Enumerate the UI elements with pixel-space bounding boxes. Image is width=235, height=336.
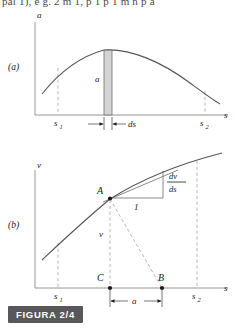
panel-b-derivative-label: dv ds bbox=[167, 171, 186, 194]
svg-text:2: 2 bbox=[198, 296, 202, 303]
panel-b-y-axis-label: v bbox=[37, 160, 41, 170]
svg-text:1: 1 bbox=[60, 296, 63, 303]
panel-b-xtick-s2: s 2 bbox=[192, 291, 202, 303]
panel-b-point-B-label: B bbox=[158, 272, 164, 283]
svg-text:s: s bbox=[54, 118, 58, 128]
panel-b-run-label: 1 bbox=[134, 202, 139, 212]
panel-b-point-C-label: C bbox=[97, 272, 104, 283]
panel-b-velocity-curve bbox=[42, 153, 222, 260]
panel-a-acceleration-curve bbox=[42, 50, 220, 104]
figure-root: pal 1), e g. 2 m 1, p 1 p 1 m n p a a s … bbox=[0, 0, 235, 336]
panel-a: a s (a) a s 1 s 2 bbox=[8, 10, 228, 130]
panel-a-x-axis-label: s bbox=[224, 110, 228, 120]
panel-b-x-axis-label: s bbox=[224, 283, 228, 293]
panel-b-velocity-label: v bbox=[99, 229, 103, 239]
svg-text:1: 1 bbox=[60, 123, 63, 130]
panel-a-xtick-s2: s 2 bbox=[200, 118, 210, 130]
panel-a-ds-label: ds bbox=[128, 119, 137, 129]
panel-a-differential-strip bbox=[104, 50, 112, 115]
panel-b-point-A bbox=[108, 196, 112, 200]
svg-text:s: s bbox=[200, 118, 204, 128]
derivative-denominator: ds bbox=[169, 184, 177, 194]
panel-b-point-C bbox=[108, 286, 112, 290]
svg-text:s: s bbox=[54, 291, 58, 301]
panel-b-xtick-s1: s 1 bbox=[54, 291, 63, 303]
panel-a-xtick-s1: s 1 bbox=[54, 118, 63, 130]
derivative-numerator: dv bbox=[169, 171, 177, 181]
panel-b-normal-line-AB bbox=[110, 199, 162, 288]
panel-b-point-A-label: A bbox=[96, 185, 104, 196]
panel-b-point-B bbox=[160, 286, 164, 290]
svg-text:2: 2 bbox=[206, 123, 210, 130]
figure-caption: FIGURA 2/4 bbox=[8, 306, 83, 323]
panel-a-y-axis-label: a bbox=[37, 10, 42, 20]
panel-b-subtangent-label: a bbox=[132, 296, 137, 306]
figure-svg: a s (a) a s 1 s 2 bbox=[0, 0, 235, 336]
svg-text:s: s bbox=[192, 291, 196, 301]
panel-a-strip-label: a bbox=[95, 74, 100, 84]
panel-a-ds-dimension: ds bbox=[88, 117, 137, 130]
panel-a-label: (a) bbox=[8, 62, 19, 73]
panel-b-label: (b) bbox=[8, 220, 19, 231]
panel-b-subtangent-dimension: a bbox=[110, 290, 162, 307]
panel-b: v s (b) A C B bbox=[8, 153, 228, 307]
panel-b-tangent-line bbox=[103, 170, 178, 202]
